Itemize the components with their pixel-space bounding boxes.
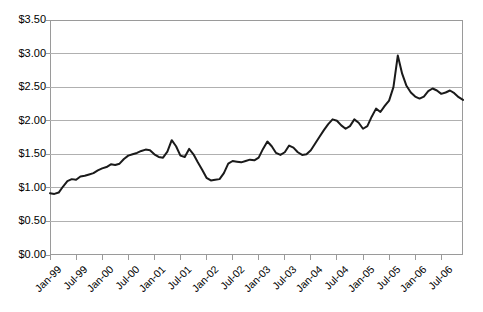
x-axis-labels: Jan-99Jul-99Jan-00Jul-00Jan-01Jul-01Jan-… bbox=[0, 0, 483, 312]
line-chart: $3.50$3.00$2.50$2.00$1.50$1.00$0.50$0.00… bbox=[0, 0, 483, 312]
